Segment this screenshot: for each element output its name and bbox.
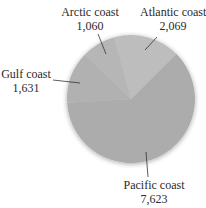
label-arctic: Arctic coast 1,060 [60, 5, 120, 33]
pie-slices [67, 35, 195, 163]
label-arctic-name: Arctic coast [60, 5, 120, 19]
label-arctic-value: 1,060 [60, 19, 120, 33]
label-atlantic-value: 2,069 [140, 19, 206, 33]
label-pacific-value: 7,623 [122, 192, 186, 206]
label-gulf-name: Gulf coast [0, 67, 52, 81]
label-atlantic-name: Atlantic coast [140, 5, 206, 19]
label-gulf-value: 1,631 [0, 81, 52, 95]
label-pacific: Pacific coast 7,623 [122, 178, 186, 206]
label-gulf: Gulf coast 1,631 [0, 67, 52, 95]
label-pacific-name: Pacific coast [122, 178, 186, 192]
label-atlantic: Atlantic coast 2,069 [140, 5, 206, 33]
